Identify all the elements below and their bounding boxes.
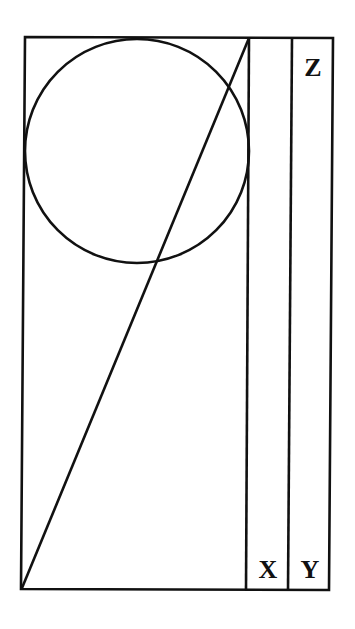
diagram-canvas: Z X Y: [0, 0, 355, 629]
label-y: Y: [301, 555, 320, 584]
strip-divider-right: [288, 38, 292, 590]
inscribed-circle: [25, 39, 249, 263]
outer-rectangle: [21, 37, 333, 590]
strip-divider-left: [246, 37, 249, 590]
label-z: Z: [304, 53, 321, 82]
label-x: X: [259, 555, 278, 584]
diagonal-line: [22, 38, 249, 588]
